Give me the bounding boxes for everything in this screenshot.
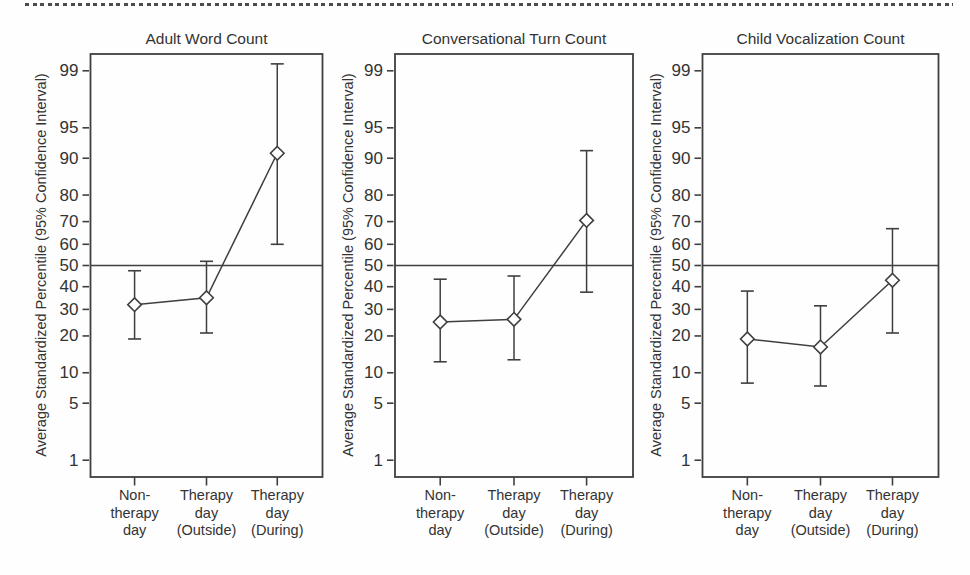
diamond-marker	[128, 298, 142, 312]
y-tick-label: 80	[672, 186, 691, 205]
y-tick-label: 90	[364, 149, 383, 168]
y-tick-label: 20	[60, 326, 79, 345]
panel-title-child-vocalization-count: Child Vocalization Count	[736, 30, 904, 48]
y-tick-label: 40	[60, 277, 79, 296]
y-tick-label: 60	[364, 235, 383, 254]
y-tick-label: 10	[364, 363, 383, 382]
y-tick-label: 10	[60, 363, 79, 382]
y-tick-label: 99	[60, 61, 79, 80]
y-tick-label: 95	[672, 118, 691, 137]
y-axis-label-panel-2: Average Standardized Percentile (95% Con…	[338, 54, 356, 477]
y-tick-label: 5	[681, 394, 690, 413]
y-tick-label: 50	[60, 256, 79, 275]
panel-title-adult-word-count: Adult Word Count	[145, 30, 267, 48]
y-tick-label: 80	[364, 186, 383, 205]
x-category-label: Non- therapy day	[416, 487, 464, 540]
panel-title-conversational-turn-count: Conversational Turn Count	[422, 30, 606, 48]
x-category-label: Therapy day (During)	[866, 487, 919, 540]
y-tick-label: 30	[364, 300, 383, 319]
y-tick-label: 40	[672, 277, 691, 296]
y-tick-label: 95	[60, 118, 79, 137]
diamond-marker	[270, 146, 284, 160]
diamond-marker	[200, 291, 214, 305]
x-category-label: Therapy day (During)	[251, 487, 304, 540]
y-tick-label: 99	[364, 61, 383, 80]
diamond-marker	[507, 313, 521, 327]
y-tick-label: 5	[374, 394, 383, 413]
x-category-label: Non- therapy day	[110, 487, 158, 540]
y-tick-label: 60	[672, 235, 691, 254]
y-tick-label: 30	[672, 300, 691, 319]
x-category-label: Therapy day (Outside)	[791, 487, 851, 540]
diamond-marker	[433, 315, 447, 329]
y-tick-label: 70	[364, 212, 383, 231]
y-tick-label: 80	[60, 186, 79, 205]
y-axis-label-panel-1: Average Standardized Percentile (95% Con…	[31, 54, 49, 477]
diamond-marker	[741, 332, 755, 346]
panel-child-vocalization-count: 151020304050607080909599	[672, 54, 939, 486]
y-tick-label: 5	[69, 394, 78, 413]
y-tick-label: 1	[374, 451, 383, 470]
y-tick-label: 90	[672, 149, 691, 168]
y-tick-label: 1	[69, 451, 78, 470]
x-category-label: Non- therapy day	[723, 487, 771, 540]
x-category-label: Therapy day (Outside)	[177, 487, 237, 540]
y-tick-label: 40	[364, 277, 383, 296]
y-tick-label: 70	[60, 212, 79, 231]
y-tick-label: 90	[60, 149, 79, 168]
x-category-label: Therapy day (During)	[560, 487, 613, 540]
y-axis-label-panel-3: Average Standardized Percentile (95% Con…	[646, 54, 664, 477]
figure-page: 1510203040506070809095991510203040506070…	[0, 0, 970, 575]
y-tick-label: 1	[681, 451, 690, 470]
y-tick-label: 10	[672, 363, 691, 382]
y-tick-label: 50	[672, 256, 691, 275]
x-category-label: Therapy day (Outside)	[484, 487, 544, 540]
y-tick-label: 20	[364, 326, 383, 345]
panel-conversational-turn-count: 151020304050607080909599	[364, 54, 633, 486]
y-tick-label: 99	[672, 61, 691, 80]
y-tick-label: 30	[60, 300, 79, 319]
panel-adult-word-count: 151020304050607080909599	[60, 54, 323, 486]
y-tick-label: 70	[672, 212, 691, 231]
y-tick-label: 50	[364, 256, 383, 275]
y-tick-label: 60	[60, 235, 79, 254]
y-tick-label: 95	[364, 118, 383, 137]
y-tick-label: 20	[672, 326, 691, 345]
diamond-marker	[580, 214, 594, 228]
